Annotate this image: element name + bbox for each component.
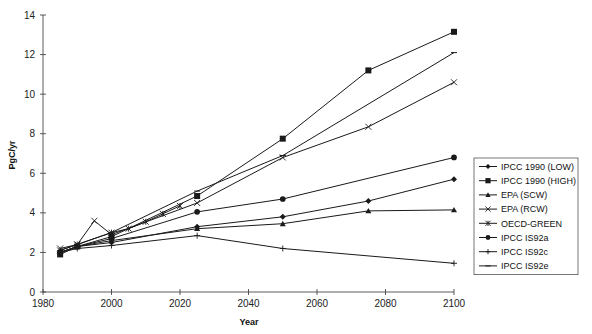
circle-marker-icon	[451, 155, 457, 161]
series-ipcc-1990-low-	[57, 176, 457, 255]
y-tick-label: 8	[29, 128, 35, 139]
y-tick-label: 12	[24, 49, 36, 60]
plus-marker-icon	[280, 245, 286, 251]
x-marker-icon	[365, 124, 371, 130]
square-marker-icon	[451, 29, 457, 35]
x-tick-label: 2100	[443, 298, 466, 309]
x-tick-label: 2040	[237, 298, 260, 309]
y-tick-label: 2	[29, 247, 35, 258]
legend-label: IPCC 1990 (LOW)	[501, 162, 574, 172]
circle-marker-icon	[280, 196, 286, 202]
y-tick-label: 0	[29, 287, 35, 298]
plot-series	[57, 29, 457, 266]
x-marker-icon	[91, 218, 97, 224]
x-axis: 1980200020202040206020802100	[32, 289, 466, 309]
y-tick-label: 6	[29, 168, 35, 179]
x-marker-icon	[451, 79, 457, 85]
square-marker-icon	[365, 67, 371, 73]
legend-label: IPCC IS92a	[501, 233, 549, 243]
circle-marker-icon	[109, 236, 115, 242]
legend-label: IPCC IS92c	[501, 247, 549, 257]
legend-label: IPCC 1990 (HIGH)	[501, 176, 576, 186]
diamond-marker-icon	[280, 214, 286, 220]
x-tick-label: 2060	[306, 298, 329, 309]
x-tick-label: 2000	[100, 298, 123, 309]
circle-marker-icon	[194, 209, 200, 215]
legend: IPCC 1990 (LOW)IPCC 1990 (HIGH)EPA (SCW)…	[474, 158, 578, 275]
legend-label: OECD-GREEN	[501, 219, 562, 229]
y-tick-label: 4	[29, 207, 35, 218]
square-marker-icon	[194, 193, 200, 199]
square-marker-icon	[485, 178, 490, 183]
diamond-marker-icon	[365, 198, 371, 204]
series-ipcc-is92e	[57, 53, 457, 251]
diamond-marker-icon	[451, 176, 457, 182]
y-axis-title: PgC/yr	[7, 140, 17, 170]
legend-label: EPA (SCW)	[501, 190, 547, 200]
plus-marker-icon	[451, 260, 457, 266]
x-axis-title: Year	[239, 317, 259, 327]
x-marker-icon	[194, 200, 200, 206]
legend-label: IPCC IS92e	[501, 261, 549, 271]
circle-marker-icon	[486, 235, 491, 240]
y-tick-label: 10	[24, 89, 36, 100]
legend-label: EPA (RCW)	[501, 204, 548, 214]
series-ipcc-1990-high-	[57, 29, 457, 258]
y-axis: 02468101214	[24, 10, 46, 298]
asterisk-marker-icon	[177, 203, 183, 209]
y-tick-label: 14	[24, 10, 36, 21]
plus-marker-icon	[194, 233, 200, 239]
x-tick-label: 2080	[374, 298, 397, 309]
x-tick-label: 1980	[32, 298, 55, 309]
x-tick-label: 2020	[169, 298, 192, 309]
series-ipcc-is92c	[57, 233, 457, 267]
line-chart: 02468101214 1980200020202040206020802100…	[0, 0, 592, 334]
asterisk-marker-icon	[160, 211, 166, 217]
square-marker-icon	[280, 136, 286, 142]
